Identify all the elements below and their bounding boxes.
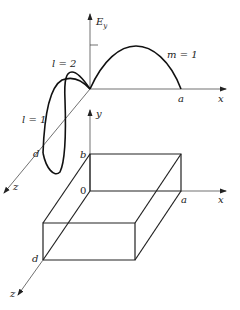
box-edge [135, 191, 181, 260]
upper-x-label: x [218, 93, 224, 104]
l1-curve [43, 78, 90, 153]
l2-label: l = 2 [52, 58, 76, 69]
upper-a-label: a [178, 93, 184, 104]
lower-b-label: b [80, 149, 86, 160]
box-back-face [90, 154, 181, 191]
box-front-face [43, 223, 135, 260]
ey-label: Ey [95, 16, 108, 30]
box-edge [43, 191, 90, 260]
lower-z-label: z [9, 288, 16, 299]
box-edge [135, 154, 181, 223]
lower-a-label: a [181, 194, 187, 205]
upper-field-plot: Ey m = 1 l = 2 l = 1 a x d z [4, 14, 226, 193]
l1-label: l = 1 [22, 114, 46, 125]
lower-x-label: x [218, 194, 224, 205]
upper-d-label: d [33, 148, 39, 159]
upper-z-axis [4, 89, 90, 193]
upper-z-label: z [12, 181, 19, 192]
lower-origin-label: 0 [80, 185, 86, 196]
lower-z-axis [18, 260, 43, 295]
m1-label: m = 1 [167, 49, 198, 60]
lower-cavity-box: y b 0 a x d z [9, 108, 226, 299]
cavity-diagram: Ey m = 1 l = 2 l = 1 a x d z y b 0 a x d… [0, 0, 240, 310]
lower-d-label: d [32, 253, 38, 264]
lower-y-label: y [95, 108, 102, 119]
